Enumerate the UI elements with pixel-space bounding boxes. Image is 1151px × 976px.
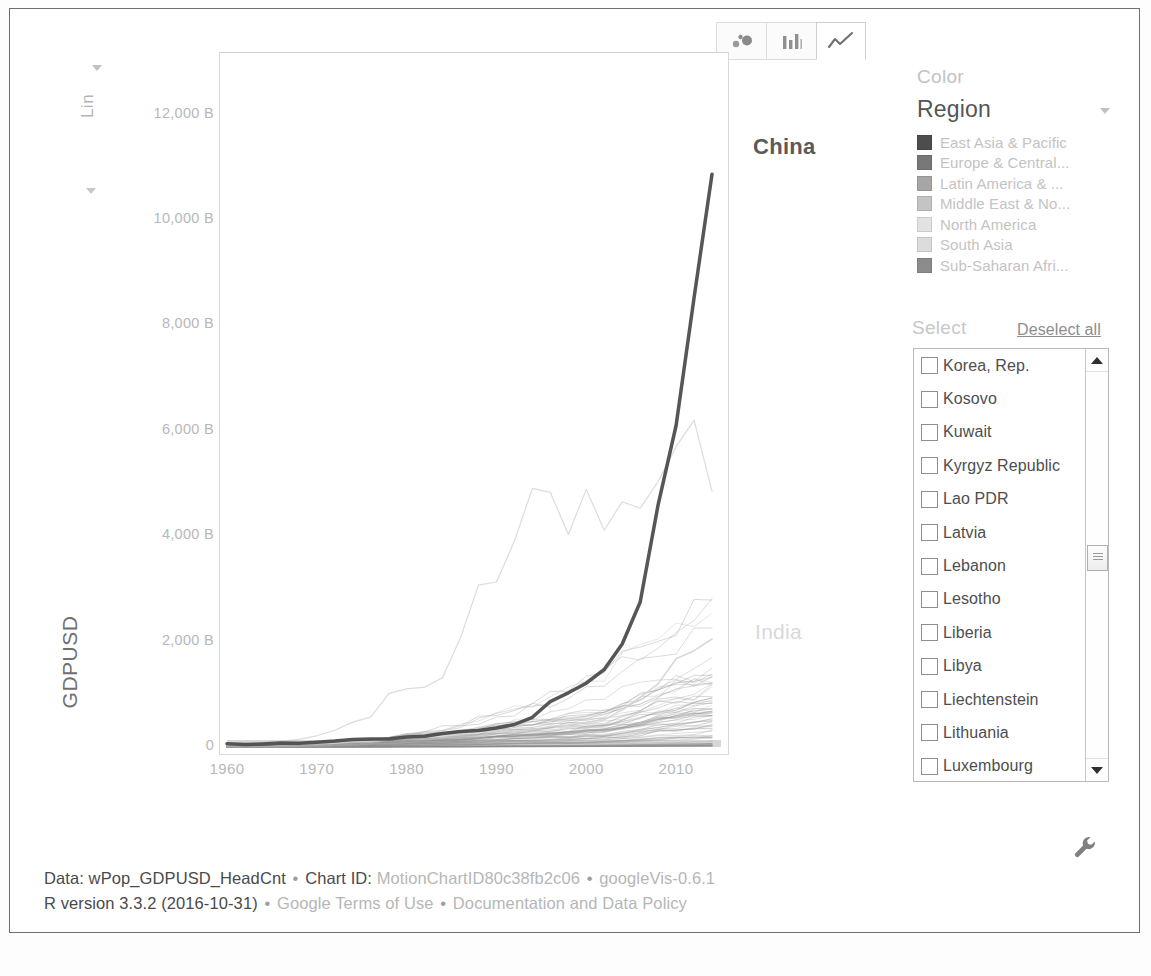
select-item-checkbox[interactable] [921, 491, 938, 508]
select-list-item[interactable]: Latvia [914, 516, 1086, 549]
legend-color-swatch [917, 135, 932, 150]
select-item-checkbox[interactable] [921, 591, 938, 608]
color-section-heading: Color [917, 66, 964, 88]
entity-select-box[interactable]: Korea, Rep.KosovoKuwaitKyrgyz RepublicLa… [913, 348, 1109, 782]
select-list-item[interactable]: Kyrgyz Republic [914, 449, 1086, 482]
select-list-item[interactable]: Kosovo [914, 382, 1086, 415]
triangle-up-icon [1091, 357, 1103, 364]
select-scrollbar[interactable] [1085, 349, 1108, 781]
x-axis-tick-label: 1990 [461, 760, 531, 777]
line-chart-button[interactable] [816, 22, 866, 60]
select-list-item[interactable]: Libya [914, 650, 1086, 683]
chevron-down-icon[interactable] [92, 65, 102, 71]
legend-color-swatch [917, 176, 932, 191]
legend-item-label: North America [940, 216, 1036, 233]
select-item-checkbox[interactable] [921, 424, 938, 441]
y-axis-variable-caret-icon[interactable] [86, 188, 96, 194]
entity-select-list: Korea, Rep.KosovoKuwaitKyrgyz RepublicLa… [914, 349, 1086, 781]
select-item-label: Latvia [943, 524, 986, 542]
y-axis-tick-label: 6,000 B [124, 421, 214, 437]
footer-text: R version 3.3.2 (2016-10-31) [44, 894, 258, 912]
bubble-chart-icon [729, 31, 755, 51]
footer-text[interactable]: googleVis-0.6.1 [599, 869, 715, 887]
select-list-item[interactable]: Liberia [914, 616, 1086, 649]
footer-text: Data: wPop_GDPUSD_HeadCnt [44, 869, 286, 887]
y-axis-tick-label: 4,000 B [124, 526, 214, 542]
motion-chart-widget: Lin GDPUSD 02,000 B4,000 B6,000 B8,000 B… [24, 10, 1114, 820]
scanned-page: Lin GDPUSD 02,000 B4,000 B6,000 B8,000 B… [0, 0, 1151, 976]
scroll-down-button[interactable] [1086, 758, 1108, 781]
x-axis-tick-labels: 196019701980199020002010 [219, 760, 735, 790]
select-item-label: Kyrgyz Republic [943, 457, 1060, 475]
legend-item[interactable]: South Asia [917, 235, 1117, 256]
footer-text[interactable]: MotionChartID80c38fb2c06 [377, 869, 580, 887]
y-axis-tick-label: 12,000 B [124, 105, 214, 121]
select-list-item[interactable]: Lao PDR [914, 483, 1086, 516]
footer: Data: wPop_GDPUSD_HeadCnt • Chart ID: Mo… [44, 866, 1044, 916]
legend-item[interactable]: East Asia & Pacific [917, 132, 1117, 153]
footer-text[interactable]: Google Terms of Use [277, 894, 434, 912]
footer-line-1: Data: wPop_GDPUSD_HeadCnt • Chart ID: Mo… [44, 866, 1044, 891]
select-item-label: Korea, Rep. [943, 357, 1029, 375]
select-item-checkbox[interactable] [921, 691, 938, 708]
deselect-all-link[interactable]: Deselect all [1017, 321, 1101, 339]
legend-color-swatch [917, 155, 932, 170]
select-item-checkbox[interactable] [921, 357, 938, 374]
footer-text[interactable]: Documentation and Data Policy [453, 894, 687, 912]
legend-color-swatch [917, 196, 932, 211]
color-variable-selector[interactable]: Region [917, 96, 1114, 126]
select-list-item[interactable]: Lithuania [914, 716, 1086, 749]
select-item-label: Lebanon [943, 557, 1006, 575]
select-list-item[interactable]: Lebanon [914, 549, 1086, 582]
y-axis-title: GDPUSD [58, 602, 82, 722]
select-item-checkbox[interactable] [921, 558, 938, 575]
select-item-checkbox[interactable] [921, 524, 938, 541]
y-axis-tick-label: 8,000 B [124, 315, 214, 331]
select-item-label: Lesotho [943, 590, 1001, 608]
color-legend: East Asia & PacificEurope & Central...La… [917, 132, 1117, 276]
plot-area[interactable] [219, 52, 729, 755]
settings-button[interactable] [1070, 832, 1100, 862]
footer-separator: • [434, 894, 453, 912]
legend-item[interactable]: Latin America & ... [917, 173, 1117, 194]
footer-line-2: R version 3.3.2 (2016-10-31) • Google Te… [44, 891, 1044, 916]
chart-type-toolbar [716, 22, 868, 60]
y-axis-tick-label: 2,000 B [124, 632, 214, 648]
x-axis-tick-label: 2010 [641, 760, 711, 777]
select-item-checkbox[interactable] [921, 624, 938, 641]
select-item-checkbox[interactable] [921, 758, 938, 775]
y-axis-tick-labels: 02,000 B4,000 B6,000 B8,000 B10,000 B12,… [116, 10, 214, 790]
legend-item[interactable]: North America [917, 214, 1117, 235]
footer-separator: • [286, 869, 305, 887]
select-list-item[interactable]: Kuwait [914, 416, 1086, 449]
select-list-item[interactable]: Liechtenstein [914, 683, 1086, 716]
select-list-item[interactable]: Korea, Rep. [914, 349, 1086, 382]
legend-item-label: Europe & Central... [940, 154, 1069, 171]
y-axis-tick-label: 10,000 B [124, 210, 214, 226]
select-list-item[interactable]: Luxembourg [914, 750, 1086, 782]
select-list-item[interactable]: Lesotho [914, 583, 1086, 616]
select-section-heading: Select [912, 317, 967, 339]
chart-controls-panel: Color Region East Asia & PacificEurope &… [890, 52, 1114, 812]
legend-color-swatch [917, 217, 932, 232]
select-item-checkbox[interactable] [921, 658, 938, 675]
legend-item[interactable]: Europe & Central... [917, 153, 1117, 174]
select-item-checkbox[interactable] [921, 724, 938, 741]
color-variable-label: Region [917, 96, 991, 123]
bar-chart-button[interactable] [766, 22, 816, 60]
select-item-label: Libya [943, 657, 982, 675]
select-item-checkbox[interactable] [921, 391, 938, 408]
y-axis-scale-control[interactable]: Lin [71, 58, 105, 233]
legend-item[interactable]: Sub-Saharan Afri... [917, 255, 1117, 276]
select-item-label: Lao PDR [943, 490, 1009, 508]
select-item-checkbox[interactable] [921, 457, 938, 474]
chevron-down-icon[interactable] [1100, 108, 1110, 114]
scroll-up-button[interactable] [1086, 349, 1108, 372]
wrench-icon [1070, 832, 1100, 862]
x-axis-tick-label: 1960 [192, 760, 262, 777]
legend-item-label: Middle East & No... [940, 195, 1070, 212]
footer-text: Chart ID: [305, 869, 377, 887]
legend-item[interactable]: Middle East & No... [917, 194, 1117, 215]
x-axis-tick-label: 2000 [551, 760, 621, 777]
scrollbar-thumb[interactable] [1087, 545, 1108, 571]
